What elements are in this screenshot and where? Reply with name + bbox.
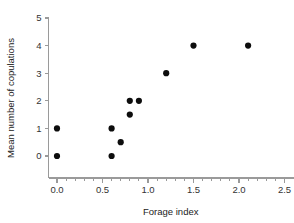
x-tick-label-1.0: 1.0 — [141, 184, 154, 195]
data-point — [127, 98, 133, 104]
data-point — [118, 139, 124, 145]
data-point — [109, 125, 115, 131]
data-point-group — [54, 43, 251, 160]
y-tick-label-2: 2 — [36, 95, 41, 106]
x-tick-label-2.5: 2.5 — [278, 184, 291, 195]
y-axis-title: Mean number of copulations — [5, 38, 16, 158]
x-tick-label-0.0: 0.0 — [50, 184, 63, 195]
x-axis-title: Forage index — [143, 206, 199, 217]
y-tick-label-4: 4 — [36, 40, 41, 51]
scatter-plot-figure: 0123450.00.51.01.52.02.5Forage indexMean… — [0, 0, 294, 223]
data-point — [54, 153, 60, 159]
data-point — [109, 153, 115, 159]
scatter-plot-canvas: 0123450.00.51.01.52.02.5Forage indexMean… — [0, 0, 294, 223]
data-point — [163, 70, 169, 76]
y-tick-label-5: 5 — [36, 12, 41, 23]
data-point — [190, 43, 196, 49]
data-point — [136, 98, 142, 104]
x-tick-label-0.5: 0.5 — [96, 184, 109, 195]
x-tick-label-1.5: 1.5 — [187, 184, 200, 195]
data-point — [127, 112, 133, 118]
data-point — [54, 125, 60, 131]
x-tick-label-2.0: 2.0 — [232, 184, 245, 195]
data-point — [245, 43, 251, 49]
y-tick-label-3: 3 — [36, 68, 41, 79]
y-tick-label-0: 0 — [36, 150, 41, 161]
y-tick-label-1: 1 — [36, 123, 41, 134]
